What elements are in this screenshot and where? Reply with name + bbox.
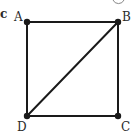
label-a: A	[13, 10, 23, 24]
vertex-c	[115, 113, 121, 119]
label-b: B	[122, 10, 131, 24]
label-d: D	[17, 120, 27, 132]
vertex-a	[24, 19, 30, 25]
square-diagram: c A B C D	[0, 0, 132, 132]
vertex-b	[115, 19, 121, 25]
vertex-d	[24, 113, 30, 119]
label-c: C	[121, 120, 130, 132]
diagonal-bd	[27, 22, 118, 116]
left-fragment-label: c	[0, 7, 7, 21]
partial-circle-arc	[113, 0, 124, 4]
